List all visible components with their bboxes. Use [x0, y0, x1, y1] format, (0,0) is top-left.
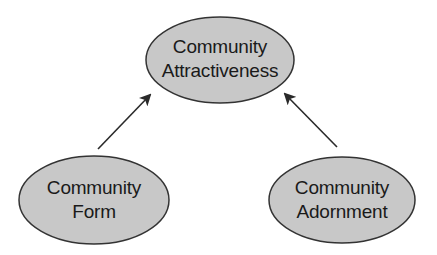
- label-line-2: Adornment: [269, 200, 415, 224]
- label-line-2: Attractiveness: [146, 59, 294, 83]
- label-line-1: Community: [269, 176, 415, 200]
- label-line-2: Form: [19, 200, 169, 224]
- label-community-adornment: Community Adornment: [269, 176, 415, 224]
- edge-form-to-attractiveness: [98, 95, 150, 149]
- diagram-canvas: Community Attractiveness Community Form …: [0, 0, 437, 255]
- edge-adornment-to-attractiveness: [285, 94, 337, 147]
- label-line-1: Community: [146, 35, 294, 59]
- label-line-1: Community: [19, 176, 169, 200]
- label-community-form: Community Form: [19, 176, 169, 224]
- label-community-attractiveness: Community Attractiveness: [146, 35, 294, 83]
